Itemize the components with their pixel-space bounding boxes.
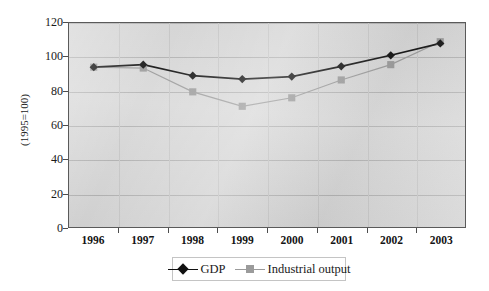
x-tick-label: 2001: [317, 233, 367, 253]
legend-swatch-gdp: [168, 263, 198, 275]
diamond-marker-icon: [177, 263, 188, 274]
x-tick-label: 2003: [416, 233, 466, 253]
y-tick-label: 20: [33, 188, 63, 200]
chart-legend: GDP Industrial output: [172, 257, 346, 281]
data-point-industrial-output-2000: [288, 94, 295, 101]
x-tick-label: 1996: [68, 233, 118, 253]
square-marker-icon: [246, 265, 254, 273]
data-point-industrial-output-2002: [387, 61, 394, 68]
legend-label-industrial-output: Industrial output: [265, 262, 351, 277]
y-tick-label: 80: [33, 85, 63, 97]
data-point-gdp-1998: [189, 72, 197, 80]
y-tick-label: 60: [33, 119, 63, 131]
data-point-gdp-1999: [238, 75, 246, 83]
y-axis-tick-labels: 020406080100120: [33, 0, 63, 291]
y-tick-label: 40: [33, 153, 63, 165]
y-tick-label: 100: [33, 50, 63, 62]
y-tick-label: 120: [33, 16, 63, 28]
legend-swatch-industrial-output: [235, 263, 265, 275]
x-tick-label: 2000: [267, 233, 317, 253]
legend-label-gdp: GDP: [198, 262, 226, 277]
x-tick-label: 2002: [367, 233, 417, 253]
data-point-industrial-output-1998: [189, 88, 196, 95]
legend-item-industrial-output[interactable]: Industrial output: [235, 262, 351, 277]
chart-container: (1995=100) 020406080100120 1996199719981…: [0, 0, 489, 291]
y-axis-title: (1995=100): [18, 65, 30, 175]
series-line-industrial-output: [94, 42, 441, 107]
x-tick-label: 1997: [118, 233, 168, 253]
plot-area: [68, 22, 466, 228]
legend-item-gdp[interactable]: GDP: [168, 262, 226, 277]
data-point-gdp-2000: [288, 72, 296, 80]
y-axis-tick: [63, 228, 68, 229]
y-tick-label: 0: [33, 222, 63, 234]
series-layer: [69, 23, 465, 227]
x-tick-label: 1998: [168, 233, 218, 253]
data-point-industrial-output-2001: [338, 76, 345, 83]
data-point-industrial-output-1999: [239, 103, 246, 110]
data-point-gdp-2001: [337, 62, 345, 70]
x-axis-tick-labels: 19961997199819992000200120022003: [68, 233, 466, 253]
x-tick-label: 1999: [217, 233, 267, 253]
data-point-gdp-2002: [387, 51, 395, 59]
